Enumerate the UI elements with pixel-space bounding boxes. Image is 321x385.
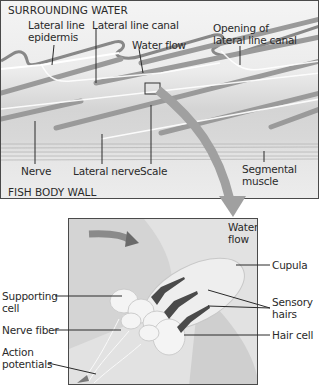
- action-potential-arrow-icon: [77, 375, 89, 383]
- opening-label-1: Opening of: [213, 22, 269, 34]
- segmental-muscle-label-2: muscle: [242, 175, 278, 187]
- hair-cell-label: Hair cell: [272, 329, 313, 341]
- action-potentials-label-1: Action: [2, 346, 34, 358]
- sensory-hairs-label-1: Sensory: [272, 296, 313, 308]
- lateral-line-canal-label: Lateral line canal: [92, 19, 179, 31]
- supporting-cell-label-2: cell: [2, 302, 19, 314]
- lateral-line-epidermis-label-1: Lateral line: [28, 19, 84, 31]
- nerve-label: Nerve: [21, 165, 51, 177]
- fish-body-wall-label: FISH BODY WALL: [8, 186, 96, 198]
- opening-label-2: lateral line canal: [213, 34, 297, 46]
- scale-label: Scale: [140, 165, 167, 177]
- water-flow-detail-label-1: Water: [228, 221, 258, 233]
- sensory-hairs-label-2: hairs: [272, 308, 297, 320]
- nerve-fiber-label: Nerve fiber: [2, 324, 59, 336]
- lateral-line-cross-section-panel: SURROUNDING WATER Lateral line epidermis…: [0, 0, 319, 199]
- lateral-line-epidermis-label-2: epidermis: [28, 31, 78, 43]
- action-potentials-label-2: potentials: [2, 358, 52, 370]
- neuromast-detail-panel: Water flow: [68, 218, 258, 385]
- arrow-head-icon: [219, 196, 246, 217]
- surrounding-water-label: SURROUNDING WATER: [8, 4, 128, 16]
- segmental-muscle-label-1: Segmental: [242, 163, 297, 175]
- supporting-cell-label-1: Supporting: [2, 290, 58, 302]
- water-flow-detail-label-2: flow: [228, 233, 249, 245]
- water-flow-label: Water flow: [132, 39, 186, 51]
- cupula-label: Cupula: [272, 259, 307, 271]
- lateral-nerve-label: Lateral nerve: [73, 165, 140, 177]
